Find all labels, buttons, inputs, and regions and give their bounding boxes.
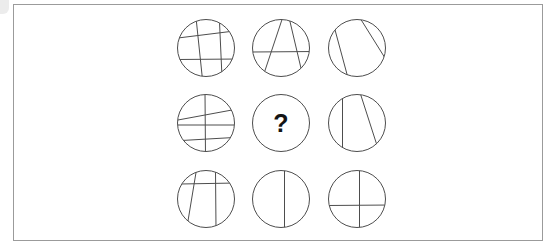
circle-outline bbox=[253, 171, 310, 228]
cell-r2c3-figure bbox=[319, 85, 395, 161]
cell-r1c3[interactable] bbox=[319, 10, 395, 86]
circle-outline bbox=[329, 20, 386, 77]
page-edge-artifact bbox=[0, 0, 9, 14]
circle-outline bbox=[329, 171, 386, 228]
cell-r3c2[interactable] bbox=[243, 161, 319, 237]
cell-r1c1[interactable] bbox=[168, 10, 244, 86]
cell-r2c1-figure bbox=[168, 85, 244, 161]
circle-outline bbox=[178, 171, 235, 228]
circle-outline bbox=[178, 20, 235, 77]
cell-r1c1-figure bbox=[168, 10, 244, 86]
cell-r3c1[interactable] bbox=[168, 161, 244, 237]
missing-cell-question-mark: ? bbox=[243, 85, 319, 161]
cell-r1c2[interactable] bbox=[243, 10, 319, 86]
cell-r3c3-figure bbox=[319, 161, 395, 237]
cell-r2c2-missing[interactable]: ? bbox=[243, 85, 319, 161]
cell-r3c2-figure bbox=[243, 161, 319, 237]
circle-outline bbox=[178, 95, 235, 152]
cell-r1c2-figure bbox=[243, 10, 319, 86]
puzzle-root: ? bbox=[0, 0, 556, 249]
cell-r3c3[interactable] bbox=[319, 161, 395, 237]
cell-r2c3[interactable] bbox=[319, 85, 395, 161]
cell-r1c3-figure bbox=[319, 10, 395, 86]
cell-r2c1[interactable] bbox=[168, 85, 244, 161]
circle-outline bbox=[329, 95, 386, 152]
cell-r3c1-figure bbox=[168, 161, 244, 237]
